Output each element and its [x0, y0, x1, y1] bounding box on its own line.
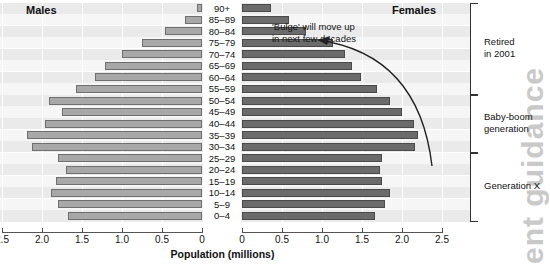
x-tick: [282, 228, 283, 233]
bracket-baby-boom: [470, 95, 478, 153]
x-tick-label: 1.5: [355, 234, 369, 245]
bar-female-15–19: [242, 177, 382, 185]
x-tick: [42, 228, 43, 233]
population-pyramid-chart: ent guidance 90+85–8980–8475–7970–7465–6…: [0, 0, 550, 266]
x-tick-label: 2.5: [0, 234, 9, 245]
bar-female-5–9: [242, 200, 385, 208]
x-tick: [442, 228, 443, 233]
bar-male-10–14: [51, 189, 202, 197]
age-group-label: 10–14: [203, 187, 241, 198]
x-tick: [202, 228, 203, 233]
age-group-label: 20–24: [203, 164, 241, 175]
bar-male-80–84: [165, 27, 202, 35]
x-tick-label: 1.0: [315, 234, 329, 245]
bar-male-70–74: [122, 50, 202, 58]
bar-male-90plus: [197, 4, 202, 12]
age-group-label: 75–79: [203, 37, 241, 48]
age-group-label: 15–19: [203, 176, 241, 187]
age-group-label: 80–84: [203, 26, 241, 37]
x-tick-label: 0: [199, 234, 205, 245]
bar-male-55–59: [76, 85, 202, 93]
bar-male-25–29: [58, 154, 202, 162]
bar-male-40–44: [45, 120, 202, 128]
gridline: [442, 0, 443, 228]
bulge-annotation: 'Bulge' will move up in next few decades: [272, 21, 356, 45]
age-group-label: 5–9: [203, 199, 241, 210]
bar-male-5–9: [58, 200, 202, 208]
bar-male-75–79: [142, 39, 202, 47]
bar-male-35–39: [27, 131, 202, 139]
age-group-label: 45–49: [203, 106, 241, 117]
x-tick: [2, 228, 3, 233]
males-header: Males: [26, 4, 57, 16]
bar-male-30–34: [32, 143, 202, 151]
bracket-generation-x: [470, 153, 478, 222]
bar-male-15–19: [56, 177, 202, 185]
age-group-label: 70–74: [203, 49, 241, 60]
age-group-label: 0–4: [203, 210, 241, 221]
bracket-label-line1: Retired: [484, 36, 515, 48]
gridline: [42, 0, 43, 228]
bar-male-45–49: [62, 108, 202, 116]
bracket-label-line2: generation: [484, 123, 533, 135]
x-tick-label: 2.5: [435, 234, 449, 245]
bracket-label-baby-boom: Baby-boomgeneration: [484, 111, 533, 135]
bar-female-20–24: [242, 166, 380, 174]
bar-female-45–49: [242, 108, 402, 116]
bar-female-70–74: [242, 50, 345, 58]
bar-female-0–4: [242, 212, 375, 220]
age-group-label: 50–54: [203, 95, 241, 106]
bulge-annotation-line1: 'Bulge' will move up: [272, 21, 356, 33]
x-tick: [362, 228, 363, 233]
gridline: [402, 0, 403, 228]
bracket-label-line2: in 2001: [484, 48, 515, 60]
bar-female-50–54: [242, 97, 390, 105]
bar-male-0–4: [68, 212, 202, 220]
x-tick-label: 0.5: [275, 234, 289, 245]
bar-male-85–89: [185, 16, 202, 24]
bulge-annotation-line2: in next few decades: [272, 33, 356, 45]
bar-male-20–24: [66, 166, 202, 174]
x-tick: [322, 228, 323, 233]
x-tick-label: 1.0: [115, 234, 129, 245]
age-group-label: 35–39: [203, 130, 241, 141]
gridline: [2, 0, 3, 228]
bar-female-30–34: [242, 143, 415, 151]
age-group-label: 60–64: [203, 72, 241, 83]
plot-area: 90+85–8980–8475–7970–7465–6960–6455–5950…: [0, 0, 550, 232]
bar-male-65–69: [105, 62, 202, 70]
bracket-label-generation-x: Generation X: [484, 180, 540, 192]
females-header: Females: [392, 4, 436, 16]
x-tick: [162, 228, 163, 233]
age-group-label: 65–69: [203, 60, 241, 71]
bar-female-35–39: [242, 131, 418, 139]
axis-line: [242, 232, 442, 233]
x-tick-label: 0: [239, 234, 245, 245]
x-tick: [82, 228, 83, 233]
x-tick-label: 1.5: [75, 234, 89, 245]
bar-female-40–44: [242, 120, 414, 128]
x-tick: [242, 228, 243, 233]
bar-female-90plus: [242, 4, 271, 12]
age-group-label: 85–89: [203, 14, 241, 25]
age-group-label: 40–44: [203, 118, 241, 129]
age-group-label: 55–59: [203, 83, 241, 94]
x-tick-label: 0.5: [155, 234, 169, 245]
x-tick-label: 2.0: [395, 234, 409, 245]
bar-female-65–69: [242, 62, 352, 70]
axis-title: Population (millions): [0, 248, 445, 260]
age-group-axis: 90+85–8980–8475–7970–7465–6960–6455–5950…: [203, 0, 241, 230]
age-group-label: 90+: [203, 3, 241, 14]
bracket-retired: [470, 3, 478, 95]
bar-female-60–64: [242, 73, 361, 81]
bracket-label-line1: Baby-boom: [484, 111, 533, 123]
age-group-label: 30–34: [203, 141, 241, 152]
age-group-label: 25–29: [203, 153, 241, 164]
bracket-label-retired: Retiredin 2001: [484, 36, 515, 60]
bar-male-60–64: [95, 73, 202, 81]
x-tick: [402, 228, 403, 233]
bar-female-55–59: [242, 85, 377, 93]
bar-female-25–29: [242, 154, 382, 162]
bracket-label-line1: Generation X: [484, 180, 540, 192]
bar-male-50–54: [49, 97, 202, 105]
